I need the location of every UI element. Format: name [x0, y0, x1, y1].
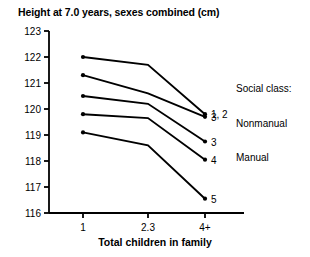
y-axis-tick-labels: 116117118119120121122123 — [24, 26, 41, 219]
series-line — [83, 57, 205, 114]
legend-group-manual: Manual — [236, 152, 269, 163]
series-point — [203, 158, 207, 162]
y-tick-label: 123 — [24, 26, 41, 37]
series-point — [203, 197, 207, 201]
series-point — [203, 115, 207, 119]
legend-title: Social class: — [236, 83, 292, 94]
x-axis-label: Total children in family — [0, 236, 310, 248]
x-tick-label: 4+ — [199, 222, 211, 233]
x-axis-tick-labels: 12.34+ — [80, 222, 211, 233]
y-tick-label: 121 — [24, 78, 41, 89]
x-tick-label: 1 — [80, 222, 86, 233]
series-end-label: 5 — [211, 194, 217, 205]
y-tick-label: 116 — [25, 208, 41, 219]
series-end-label: 3 — [211, 112, 217, 123]
chart-series-group — [81, 55, 207, 201]
y-tick-label: 119 — [25, 130, 41, 141]
series-point — [81, 55, 85, 59]
series-point — [203, 139, 207, 143]
legend-group-nonmanual: Nonmanual — [236, 118, 287, 129]
x-tick-label: 2.3 — [141, 222, 155, 233]
chart-series-labels: 1, 23345 — [211, 109, 228, 205]
y-tick-label: 117 — [25, 182, 41, 193]
y-tick-label: 122 — [24, 52, 41, 63]
series-point — [81, 94, 85, 98]
series-point — [81, 112, 85, 116]
y-tick-label: 118 — [25, 156, 41, 167]
chart-page: Height at 7.0 years, sexes combined (cm)… — [0, 0, 310, 257]
y-tick-label: 120 — [24, 104, 41, 115]
series-line — [83, 132, 205, 198]
series-end-label: 3 — [211, 137, 217, 148]
series-point — [81, 73, 85, 77]
series-end-label: 4 — [211, 155, 217, 166]
series-point — [81, 130, 85, 134]
series-line — [83, 75, 205, 117]
